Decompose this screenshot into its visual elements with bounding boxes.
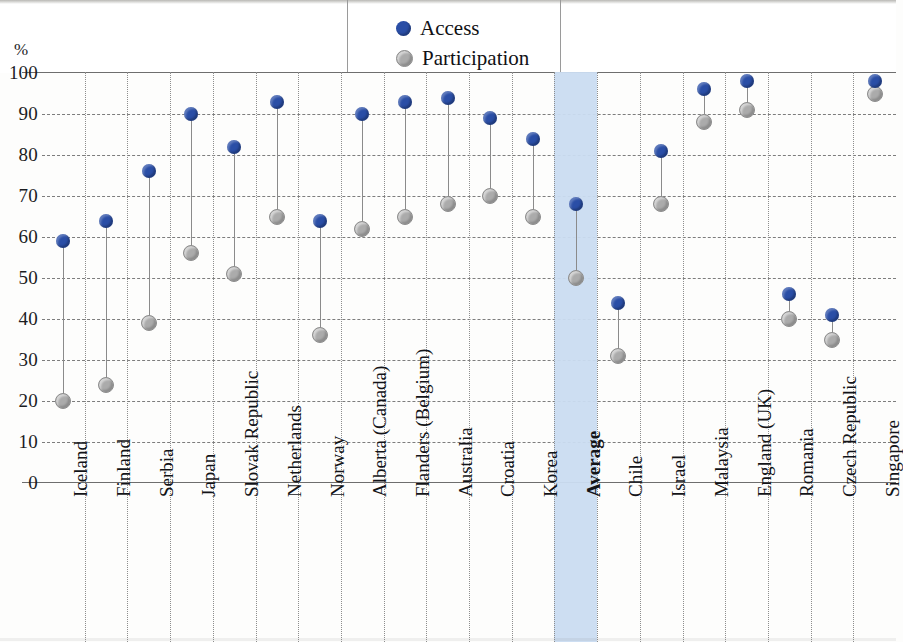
participation-point[interactable] bbox=[653, 196, 669, 212]
access-point[interactable] bbox=[227, 140, 241, 154]
x-tick-label: Flanders (Belgium) bbox=[413, 349, 432, 497]
participation-point[interactable] bbox=[568, 270, 584, 286]
participation-point[interactable] bbox=[696, 114, 712, 130]
participation-point[interactable] bbox=[739, 102, 755, 118]
x-tick-label: Malaysia bbox=[712, 427, 731, 497]
x-tick-label: Finland bbox=[114, 439, 133, 497]
x-tick-label: Israel bbox=[669, 455, 688, 497]
x-gridline bbox=[384, 72, 385, 642]
access-point[interactable] bbox=[184, 107, 198, 121]
participation-point[interactable] bbox=[312, 327, 328, 343]
x-gridline bbox=[298, 72, 299, 642]
connector-line bbox=[362, 114, 363, 229]
access-point[interactable] bbox=[355, 107, 369, 121]
x-gridline bbox=[811, 72, 812, 642]
access-point[interactable] bbox=[313, 214, 327, 228]
x-tick-label: Norway bbox=[328, 436, 347, 497]
average-highlight-band bbox=[554, 72, 597, 642]
legend-label: Access bbox=[420, 18, 479, 39]
y-tick-label-90: 90 bbox=[0, 104, 38, 123]
access-point[interactable] bbox=[142, 164, 156, 178]
connector-line bbox=[576, 204, 577, 278]
y-tick-label-70: 70 bbox=[0, 186, 38, 205]
x-gridline bbox=[554, 72, 555, 642]
y-axis-unit-label: % bbox=[14, 40, 28, 60]
access-point[interactable] bbox=[868, 74, 882, 88]
participation-point[interactable] bbox=[183, 245, 199, 261]
x-gridline bbox=[683, 72, 684, 642]
connector-line bbox=[277, 102, 278, 217]
x-tick-label: Average bbox=[584, 431, 603, 497]
access-point[interactable] bbox=[654, 144, 668, 158]
scan-artifact bbox=[0, 638, 896, 641]
x-tick-label: Alberta (Canada) bbox=[370, 366, 389, 497]
connector-line bbox=[405, 102, 406, 217]
access-point[interactable] bbox=[697, 82, 711, 96]
access-point[interactable] bbox=[740, 74, 754, 88]
x-gridline bbox=[597, 72, 598, 642]
access-point[interactable] bbox=[526, 132, 540, 146]
legend-item-participation[interactable]: Participation bbox=[396, 48, 529, 69]
access-point[interactable] bbox=[825, 308, 839, 322]
y-tick-label-100: 100 bbox=[0, 63, 38, 82]
x-tick-label: Romania bbox=[797, 428, 816, 497]
participation-point[interactable] bbox=[610, 348, 626, 364]
connector-line bbox=[490, 118, 491, 196]
x-tick-label: Czech Republic bbox=[840, 376, 859, 497]
access-point[interactable] bbox=[398, 95, 412, 109]
x-tick-label: Iceland bbox=[71, 441, 90, 497]
access-point[interactable] bbox=[99, 214, 113, 228]
access-point[interactable] bbox=[483, 111, 497, 125]
participation-point[interactable] bbox=[98, 377, 114, 393]
participation-point[interactable] bbox=[781, 311, 797, 327]
participation-point[interactable] bbox=[397, 209, 413, 225]
x-tick-label: Korea bbox=[541, 451, 560, 497]
x-tick-label: Japan bbox=[199, 454, 218, 497]
access-point[interactable] bbox=[441, 91, 455, 105]
participation-point[interactable] bbox=[226, 266, 242, 282]
y-tick-label-0: 0 bbox=[0, 473, 38, 492]
x-tick-label: Chile bbox=[626, 456, 645, 497]
x-gridline bbox=[768, 72, 769, 642]
x-gridline bbox=[127, 72, 128, 642]
y-tick-label-40: 40 bbox=[0, 309, 38, 328]
x-tick-label: Australia bbox=[456, 427, 475, 497]
legend-marker-access-icon bbox=[396, 21, 411, 36]
access-point[interactable] bbox=[782, 287, 796, 301]
x-tick-label: Serbia bbox=[157, 448, 176, 497]
x-gridline bbox=[213, 72, 214, 642]
legend-item-access[interactable]: Access bbox=[396, 18, 479, 39]
legend-label: Participation bbox=[422, 48, 529, 69]
x-gridline bbox=[85, 72, 86, 642]
y-tick-label-60: 60 bbox=[0, 227, 38, 246]
legend-right-divider bbox=[560, 0, 561, 72]
connector-line bbox=[106, 221, 107, 385]
connector-line bbox=[149, 171, 150, 323]
x-tick-label: Netherlands bbox=[285, 405, 304, 497]
x-gridline bbox=[725, 72, 726, 642]
connector-line bbox=[533, 139, 534, 217]
participation-point[interactable] bbox=[269, 209, 285, 225]
connector-line bbox=[234, 147, 235, 274]
access-point[interactable] bbox=[569, 197, 583, 211]
participation-point[interactable] bbox=[55, 393, 71, 409]
connector-line bbox=[191, 114, 192, 253]
legend-marker-participation-icon bbox=[396, 50, 413, 67]
participation-point[interactable] bbox=[824, 332, 840, 348]
participation-point[interactable] bbox=[482, 188, 498, 204]
access-point[interactable] bbox=[56, 234, 70, 248]
x-gridline bbox=[853, 72, 854, 642]
access-point[interactable] bbox=[611, 296, 625, 310]
y-tick-label-20: 20 bbox=[0, 391, 38, 410]
access-point[interactable] bbox=[270, 95, 284, 109]
x-tick-label: England (UK) bbox=[755, 389, 774, 497]
participation-point[interactable] bbox=[440, 196, 456, 212]
participation-point[interactable] bbox=[354, 221, 370, 237]
y-tick-label-30: 30 bbox=[0, 350, 38, 369]
participation-point[interactable] bbox=[141, 315, 157, 331]
participation-point[interactable] bbox=[525, 209, 541, 225]
x-tick-label: Slovak Republic bbox=[242, 371, 261, 497]
connector-line bbox=[448, 98, 449, 205]
page-top-edge bbox=[0, 0, 896, 4]
